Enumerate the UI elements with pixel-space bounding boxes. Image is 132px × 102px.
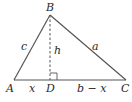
segment-label-x: x [29, 82, 36, 95]
side-label-h: h [54, 44, 61, 57]
segment-label-b-minus-x: b − x [77, 82, 107, 95]
vertex-label-d: D [45, 82, 55, 95]
vertex-label-b: B [45, 1, 54, 14]
side-label-c: c [21, 40, 27, 53]
triangle-diagram: B A D C c h a x b − x [0, 0, 132, 102]
right-angle-marker [50, 73, 57, 80]
vertex-label-a: A [5, 82, 14, 95]
side-label-a: a [92, 40, 99, 53]
side-c [14, 15, 50, 80]
side-a [50, 15, 126, 80]
vertex-label-c: C [121, 82, 130, 95]
